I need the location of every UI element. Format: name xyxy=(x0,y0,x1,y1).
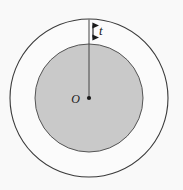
center-label: O xyxy=(71,92,80,106)
thickness-label: t xyxy=(99,23,103,38)
annulus-diagram: t O xyxy=(0,0,183,190)
annulus-figure: t O xyxy=(0,0,183,190)
center-point xyxy=(87,96,91,100)
